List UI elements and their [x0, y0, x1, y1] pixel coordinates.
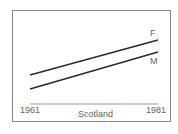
x-axis-title: Scotland	[78, 110, 113, 119]
x-tick-start: 1961	[20, 106, 40, 115]
series-m-label: M	[150, 57, 158, 66]
series-f-label: F	[150, 29, 156, 38]
x-tick-end: 1981	[146, 106, 166, 115]
